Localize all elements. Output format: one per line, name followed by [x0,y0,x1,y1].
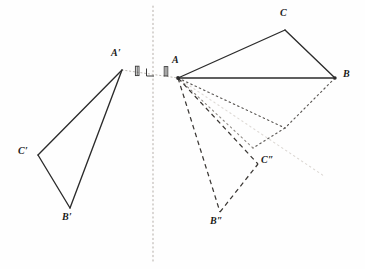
vertex-dot-B [333,76,336,79]
edge-A-to-C [178,30,285,78]
edge-Cp-to-Bp [38,155,70,208]
geometry-figure: A B C A′ B′ C′ B″ C″ [0,0,365,269]
vertex-label-C: C [280,8,287,18]
reflected-triangle-ApBpCp [38,70,122,208]
vertex-label-C-prime: C′ [18,146,28,156]
double-prime-mark: ″ [217,215,223,226]
prime-mark: ′ [69,211,72,222]
rotated-triangle-dashed [178,78,258,212]
vertex-label-B-prime: B′ [62,212,72,222]
vertex-label-B-double-prime: B″ [210,216,223,226]
intermediate-rotated-triangle [178,78,335,148]
edge-C-to-B [285,30,335,78]
vertex-label-B: B [343,69,350,79]
congruence-tick-right [164,67,168,76]
vertex-label-A: A [172,55,179,65]
edge-A-to-Cdd [178,78,258,164]
original-triangle-ABC [178,30,335,78]
double-prime-mark: ″ [268,154,274,165]
geometry-canvas [0,0,365,269]
vertex-dot-A [176,76,180,80]
congruence-tick-left [135,66,139,75]
edge-Ap-to-Cp [38,70,122,155]
edge-Ap-to-Bp [70,70,122,208]
construction-ray-faint [178,78,324,176]
vertex-label-A-prime: A′ [111,48,121,58]
reflection-connector-ray [122,70,178,78]
vertex-label-C-double-prime: C″ [261,155,274,165]
prime-mark: ′ [25,145,28,156]
prime-mark: ′ [118,47,121,58]
edge-Bdd-to-Cdd [220,164,258,212]
